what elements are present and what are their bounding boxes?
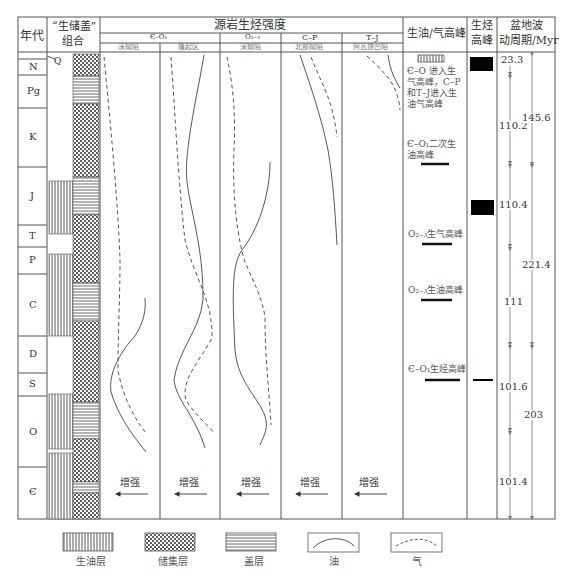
enhance-label-1: 增强: [120, 478, 140, 488]
group-c-o1: Є–O₁: [150, 34, 167, 41]
age-j: J: [30, 191, 34, 201]
source-rock-strata: [49, 181, 73, 519]
sub-north: 北部拗陷: [295, 44, 323, 51]
sub-deep-1: 深拗陷: [118, 44, 139, 51]
peak-text-5: Є–O₁生烃高峰: [408, 365, 466, 374]
peak-bars: [421, 164, 460, 380]
age-c: C: [29, 300, 37, 310]
header-assemblage-2: 组合: [62, 36, 84, 47]
reservoir-cap-strata: [73, 54, 99, 519]
hc-peak-blocks: [470, 57, 494, 381]
header-oil-gas-peak: 生油/气高峰: [407, 28, 466, 39]
age-cambrian: Є: [29, 487, 37, 497]
age-t: T: [29, 231, 36, 241]
enhance-label-2: 增强: [179, 478, 199, 488]
intensity-curves: [104, 55, 400, 452]
peak-text-1: Є–O 进入生 气高峰，C–P 和T–J进入生 油气高峰: [407, 66, 460, 110]
group-o2-3: O₂₋₃: [245, 34, 260, 41]
cycle-101-4: 101.4: [499, 477, 528, 487]
enhance-label-3: 增强: [241, 478, 261, 488]
age-pg: Pg: [27, 86, 40, 96]
peak-text-4: O₂₋₃生油高峰: [408, 286, 463, 295]
header-hc-1: 生烃: [471, 20, 493, 31]
cycle-145-6: 145.6: [522, 113, 551, 123]
q-label: Q: [54, 57, 61, 66]
header-hc-2: 高峰: [471, 35, 493, 46]
sub-uplift: 隆起区: [178, 44, 199, 51]
gas-curve-o2-3: [227, 57, 271, 425]
legend-reservoir-label: 储集层: [158, 557, 188, 567]
legend-source-label: 生油层: [76, 557, 106, 567]
age-d: D: [29, 349, 37, 359]
oil-curve-c-o1-uplift: [174, 55, 205, 448]
cycle-203: 203: [524, 410, 543, 420]
legend-oil-label: 油: [329, 557, 339, 567]
diagram-canvas: [0, 0, 570, 581]
sub-deep-2: 深拗陷: [240, 44, 261, 51]
age-p: P: [29, 255, 36, 265]
age-s: S: [29, 379, 36, 389]
cycle-23-3: 23.3: [501, 55, 523, 65]
header-source-title: 源岩生烃强度: [214, 19, 286, 31]
oil-curve-c-p: [300, 55, 337, 245]
peak-source-pattern: [418, 55, 444, 62]
cycle-110-4: 110.4: [499, 200, 528, 210]
legend-cap-label: 盖层: [244, 557, 264, 567]
cycle-221-4: 221.4: [522, 260, 551, 270]
header-assemblage-1: “生储盖”: [52, 21, 96, 32]
age-o: O: [29, 427, 37, 437]
header-basin-2: 动周期/Myr: [499, 35, 558, 46]
gas-curve-c-o1-deep: [104, 57, 146, 433]
legend-swatches: [63, 533, 442, 552]
header-basin-1: 盆地波: [510, 20, 543, 31]
gas-curve-c-o1-uplift: [171, 57, 214, 433]
gas-curve-c-p: [311, 57, 337, 137]
peak-text-3: O₂₋₃生气高峰: [408, 230, 463, 239]
sub-awati: 阿瓦提凹陷: [353, 44, 388, 51]
legend-gas-label: 气: [412, 557, 422, 567]
oil-curve-o2-3: [233, 162, 270, 445]
peak-text-2: Є–O₁二次生 油高峰: [407, 139, 456, 161]
header-age: 年代: [20, 30, 44, 42]
oil-curve-c-o1-deep: [111, 298, 146, 452]
enhance-label-5: 增强: [359, 478, 379, 488]
oil-curve-t-j: [388, 55, 400, 88]
cycle-101-6: 101.6: [499, 382, 528, 392]
gas-curve-t-j: [367, 56, 400, 110]
group-t-j: T–J: [366, 34, 379, 42]
age-n: N: [29, 62, 38, 72]
cycle-111: 111: [504, 297, 523, 307]
group-c-p: C–P: [302, 34, 318, 42]
age-k: K: [29, 132, 36, 142]
enhance-label-4: 增强: [300, 478, 320, 488]
